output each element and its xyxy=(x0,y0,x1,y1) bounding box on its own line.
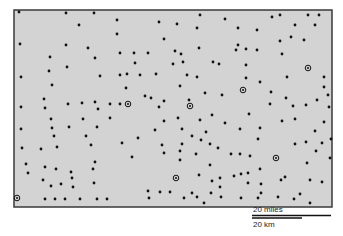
map-point xyxy=(177,117,180,120)
map-point xyxy=(307,14,310,17)
map-point xyxy=(240,173,243,176)
map-point xyxy=(224,122,227,125)
map-point xyxy=(294,118,297,121)
map-point xyxy=(245,64,248,67)
map-point xyxy=(198,47,201,50)
map-point xyxy=(81,102,84,105)
map-point xyxy=(163,120,166,123)
map-point xyxy=(329,157,332,160)
map-point xyxy=(279,40,282,43)
map-point xyxy=(21,147,24,150)
map-point xyxy=(323,86,326,89)
map-point xyxy=(176,23,179,26)
map-point xyxy=(44,107,47,110)
map-point xyxy=(55,168,58,171)
map-point xyxy=(249,155,252,158)
map-point xyxy=(294,24,297,27)
map-point xyxy=(293,198,296,201)
map-point xyxy=(79,198,82,201)
map-point xyxy=(179,150,182,153)
map-point xyxy=(109,103,112,106)
map-point xyxy=(247,172,250,175)
map-point xyxy=(284,176,287,179)
map-point xyxy=(256,49,259,52)
map-point xyxy=(19,43,22,46)
map-point xyxy=(144,95,147,98)
map-point xyxy=(182,61,185,64)
map-point xyxy=(209,164,212,167)
map-point xyxy=(183,197,186,200)
map-point xyxy=(323,121,326,124)
scale-label-miles: 20 miles xyxy=(253,206,283,214)
map-point xyxy=(169,191,172,194)
map-point xyxy=(259,168,262,171)
map-point xyxy=(285,97,288,100)
map-point xyxy=(286,76,289,79)
map-point xyxy=(230,153,233,156)
map-point xyxy=(259,81,262,84)
map-point xyxy=(174,50,177,53)
map-point xyxy=(96,126,99,129)
map-point xyxy=(139,74,142,77)
map-point xyxy=(260,192,263,195)
map-point xyxy=(305,104,308,107)
map-point xyxy=(93,182,96,185)
map-point xyxy=(195,153,198,156)
map-point xyxy=(94,101,97,104)
map-point xyxy=(133,52,136,55)
map-point xyxy=(269,103,272,106)
dot-distribution-map xyxy=(0,0,343,236)
map-point xyxy=(147,190,150,193)
map-point xyxy=(196,76,199,79)
map-point xyxy=(119,52,122,55)
map-point xyxy=(18,11,21,14)
map-point xyxy=(109,117,112,120)
map-point xyxy=(94,57,97,60)
map-point xyxy=(134,62,137,65)
map-point xyxy=(71,177,74,180)
map-point xyxy=(43,98,46,101)
map-point xyxy=(305,141,308,144)
map-point xyxy=(315,150,318,153)
map-point xyxy=(211,114,214,117)
map-point xyxy=(321,181,324,184)
map-point xyxy=(218,63,221,66)
map-point xyxy=(306,162,309,165)
map-point xyxy=(198,174,201,177)
map-point xyxy=(179,159,182,162)
map-point xyxy=(290,36,293,39)
map-point xyxy=(281,53,284,56)
map-point xyxy=(279,14,282,17)
map-point xyxy=(314,130,317,133)
map-point xyxy=(125,87,128,90)
map-point xyxy=(219,177,222,180)
map-point xyxy=(116,19,119,22)
map-point xyxy=(210,192,213,195)
map-point xyxy=(148,197,151,200)
map-point xyxy=(155,73,158,76)
map-point xyxy=(186,74,189,77)
map-point xyxy=(309,179,312,182)
map-point xyxy=(224,18,227,21)
map-point xyxy=(221,94,224,97)
map-point xyxy=(90,144,93,147)
map-point xyxy=(299,193,302,196)
map-point xyxy=(50,185,53,188)
map-point xyxy=(309,202,312,205)
map-point xyxy=(191,135,194,138)
map-point xyxy=(211,180,214,183)
map-point xyxy=(64,198,67,201)
map-point xyxy=(53,135,56,138)
map-point xyxy=(154,129,157,132)
map-point xyxy=(50,118,53,121)
map-point xyxy=(70,171,73,174)
map-point xyxy=(316,99,319,102)
map-point xyxy=(97,108,100,111)
map-point xyxy=(235,49,238,52)
map-point xyxy=(119,74,122,77)
map-point xyxy=(60,183,63,186)
map-point xyxy=(233,175,236,178)
map-point xyxy=(20,128,23,131)
map-point xyxy=(217,147,220,150)
map-point xyxy=(191,192,194,195)
